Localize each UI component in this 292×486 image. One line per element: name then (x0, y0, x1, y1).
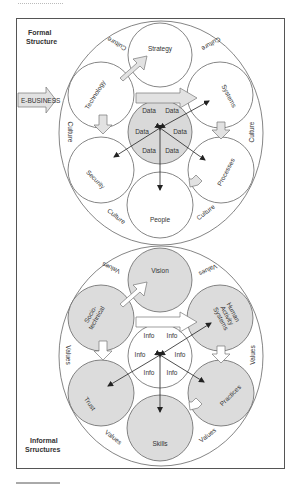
strategy-label: Strategy (148, 45, 173, 53)
vision-circle (128, 248, 192, 312)
trust-circle (68, 360, 134, 426)
vision-label: Vision (151, 267, 169, 274)
informal-heading-line2: Srructures (25, 446, 61, 453)
processes-circle (188, 137, 254, 203)
info-label: Info (167, 369, 178, 376)
e-business-label: E-BUSINESS (21, 97, 61, 104)
informal-structures-diagram: Vision Socio- technical Human Activity S… (25, 246, 263, 466)
data-label: Data (142, 107, 156, 114)
people-label: People (150, 216, 171, 224)
info-label: Info (144, 332, 155, 339)
data-label: Data (142, 147, 156, 154)
values-label: Values (65, 345, 72, 365)
strategy-circle (128, 23, 192, 87)
culture-label: Culture (67, 122, 74, 143)
data-label: Data (165, 147, 179, 154)
data-label: Data (135, 128, 149, 135)
info-label: Info (175, 351, 186, 358)
informal-heading-line1: Informal (30, 437, 58, 444)
formal-heading-line1: Formal (28, 29, 51, 36)
systems-circle (187, 62, 253, 128)
info-label: Info (135, 351, 146, 358)
e-business-diagram: Formal Structure E-BUSINESS Strategy Tec… (0, 0, 292, 486)
culture-label: Culture (248, 121, 255, 142)
values-label: Values (249, 345, 256, 365)
info-label: Info (167, 332, 178, 339)
data-label: Data (165, 107, 179, 114)
formal-heading-line2: Structure (26, 38, 57, 45)
skills-label: Skills (152, 440, 168, 447)
practices-circle (188, 360, 254, 426)
data-label: Data (173, 128, 187, 135)
info-label: Info (144, 369, 155, 376)
formal-structure-diagram: Formal Structure E-BUSINESS Strategy Tec… (18, 21, 263, 245)
security-circle (68, 137, 134, 203)
